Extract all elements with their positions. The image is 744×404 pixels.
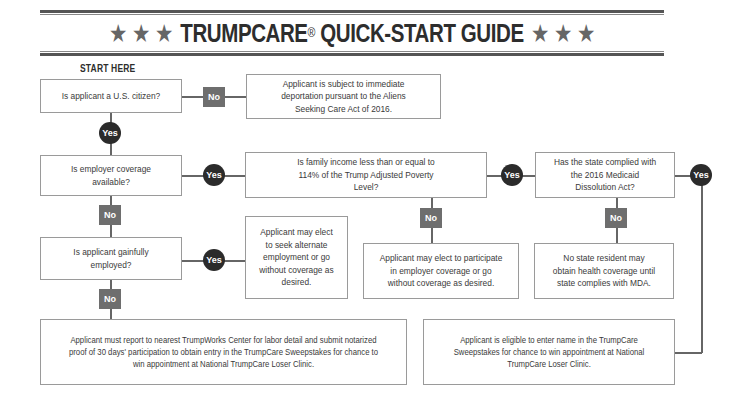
yes-badge-employed: Yes [203,249,225,271]
yes-badge-citizen: Yes [99,122,121,144]
no-badge-employer: No [99,205,121,225]
sweepstakes-outcome-box: Applicant is eligible to enter name in t… [423,319,675,385]
citizen-question-box: Is applicant a U.S. citizen? [40,79,182,113]
no-badge-citizen: No [203,87,225,107]
title-rule-top-thick [40,10,664,13]
no-badge-employed: No [99,289,121,309]
no-badge-state: No [605,208,627,228]
connector [675,352,702,354]
yes-badge-state: Yes [690,164,712,186]
title-rule-bottom-thick [40,53,664,56]
alternate-outcome-box: Applicant may elect to seek alternate em… [245,216,348,299]
trumpworks-outcome-text: Applicant must report to nearest TrumpWo… [68,334,378,370]
state-question-box: Has the state complied with the 2016 Med… [535,152,675,198]
income-question-text: Is family income less than or equal to 1… [292,156,440,194]
sweepstakes-outcome-text: Applicant is eligible to enter name in t… [448,334,649,370]
start-here-label: START HERE [80,63,135,74]
stars-right-icon: ★ ★ ★ [531,19,594,48]
title-rule-top-thin [40,14,664,15]
title-text: TRUMPCARE [180,19,307,48]
employed-question-text: Is applicant gainfully employed? [53,246,169,271]
yes-badge-employer: Yes [203,164,225,186]
alternate-outcome-text: Applicant may elect to seek alternate em… [259,226,334,289]
employer-question-text: Is employer coverage available? [53,163,169,188]
title-rule-bottom-thin [40,51,664,52]
participate-outcome-text: Applicant may elect to participate in em… [379,252,504,290]
employed-question-box: Is applicant gainfully employed? [40,237,182,280]
no-badge-income: No [420,208,442,228]
income-question-box: Is family income less than or equal to 1… [245,152,487,198]
connector [701,175,703,353]
no-resident-outcome-box: No state resident may obtain health cove… [534,243,674,299]
employer-question-box: Is employer coverage available? [40,155,182,196]
yes-badge-income: Yes [501,164,523,186]
title-subtitle: QUICK-START GUIDE [315,19,524,48]
deportation-outcome-text: Applicant is subject to immediate deport… [267,78,419,116]
page-title: ★ ★ ★ TRUMPCARE® QUICK-START GUIDE ★ ★ ★ [96,17,608,49]
participate-outcome-box: Applicant may elect to participate in em… [363,243,519,299]
no-resident-outcome-text: No state resident may obtain health cove… [552,252,656,290]
citizen-question-text: Is applicant a U.S. citizen? [62,90,161,103]
state-question-text: Has the state complied with the 2016 Med… [550,156,661,194]
stars-left-icon: ★ ★ ★ [109,19,172,48]
deportation-outcome-box: Applicant is subject to immediate deport… [246,74,441,119]
trumpworks-outcome-box: Applicant must report to nearest TrumpWo… [40,319,407,385]
